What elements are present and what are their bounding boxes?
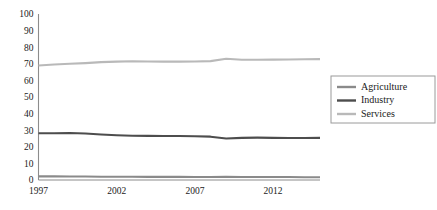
- legend-label-services: Services: [361, 108, 395, 119]
- y-tick-label: 20: [24, 142, 34, 152]
- y-tick-label: 10: [24, 159, 34, 169]
- y-tick-label: 0: [29, 175, 34, 185]
- y-tick-label: 60: [24, 76, 34, 86]
- series-line-agriculture: [39, 176, 321, 177]
- y-tick-label: 40: [24, 109, 34, 119]
- chart-legend: AgricultureIndustryServices: [331, 76, 435, 123]
- legend-label-industry: Industry: [361, 94, 394, 105]
- x-tick-label: 2012: [264, 186, 283, 196]
- y-tick-label: 100: [19, 9, 34, 19]
- y-tick-label: 90: [24, 26, 34, 36]
- data-series-group: [39, 59, 321, 177]
- y-tick-label: 30: [24, 126, 34, 136]
- y-tick-label: 70: [24, 59, 34, 69]
- x-tick-label: 2007: [185, 186, 204, 196]
- series-line-industry: [39, 133, 321, 138]
- x-tick-label: 2002: [107, 186, 126, 196]
- y-tick-label: 80: [24, 43, 34, 53]
- y-axis-tick-labels: 0102030405060708090100: [19, 9, 34, 185]
- line-chart: 0102030405060708090100 1997200220072012 …: [0, 0, 437, 210]
- legend-label-agriculture: Agriculture: [361, 81, 408, 92]
- chart-container: 0102030405060708090100 1997200220072012 …: [0, 0, 437, 210]
- y-tick-label: 50: [24, 92, 34, 102]
- series-line-services: [39, 59, 321, 66]
- x-tick-label: 1997: [29, 186, 48, 196]
- x-axis-tick-labels: 1997200220072012: [29, 186, 283, 196]
